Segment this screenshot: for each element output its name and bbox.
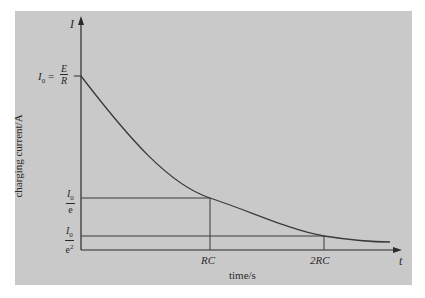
x-axis-arrow-icon xyxy=(393,247,402,253)
x-tick-label-rc: RC xyxy=(201,254,215,266)
y-axis-arrow-icon xyxy=(78,16,84,25)
decay-curve xyxy=(81,76,390,242)
y-axis-symbol: I xyxy=(70,17,74,32)
y-tick-fraction-e-over-r: E R xyxy=(60,64,68,86)
y-tick-label-i0-over-e2: I0 e2 xyxy=(65,226,74,255)
y-tick-label-i0-over-e: I0 e xyxy=(66,189,75,215)
x-axis-symbol: t xyxy=(399,254,402,269)
y-tick-label-i0: I0 = xyxy=(38,70,54,85)
x-axis-title: time/s xyxy=(229,269,256,281)
y-axis-title: charging current/A xyxy=(12,114,24,197)
x-tick-label-2rc: 2RC xyxy=(310,254,330,266)
